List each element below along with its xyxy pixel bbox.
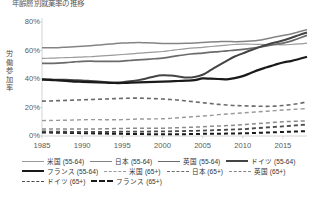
legend-item[interactable]: 米国 (65+) [104,166,160,176]
legend-swatch-icon [158,161,180,162]
legend-item[interactable]: フランス (65+) [91,176,161,186]
legend-item[interactable]: 米国 (55-64) [22,156,84,166]
legend-item[interactable]: 日本 (65+) [167,166,223,176]
chart-container: 年齢層別就業率の推移 労働参加率 80%60%40%20%0% 19851990… [0,0,313,199]
legend-label: フランス (65+) [116,176,161,186]
series-line [42,109,307,121]
legend-swatch-icon [22,161,44,162]
series-line [42,125,307,132]
legend-item[interactable]: 英国 (65+) [229,166,285,176]
legend-label: 米国 (55-64) [47,156,84,166]
legend-swatch-icon [22,181,44,182]
legend-label: ドイツ (65+) [47,176,85,186]
legend-swatch-icon [167,171,189,172]
legend-item[interactable]: フランス (55-64) [22,166,98,176]
legend-swatch-icon [91,180,113,182]
legend-swatch-icon [90,161,112,162]
legend-label: フランス (55-64) [47,166,98,176]
chart-legend: 米国 (55-64)日本 (55-64)英国 (55-64)ドイツ (55-64… [22,156,307,186]
legend-swatch-icon [104,171,126,172]
legend-swatch-icon [22,170,44,172]
series-line [42,131,307,134]
legend-label: 英国 (55-64) [183,156,220,166]
series-line [42,35,307,63]
legend-label: ドイツ (55-64) [251,156,295,166]
series-line [42,98,307,106]
legend-label: 日本 (65+) [192,166,223,176]
legend-label: 英国 (65+) [254,166,285,176]
legend-label: 日本 (55-64) [115,156,152,166]
legend-swatch-icon [229,171,251,172]
legend-item[interactable]: 英国 (55-64) [158,156,220,166]
legend-label: 米国 (65+) [129,166,160,176]
legend-swatch-icon [226,160,248,162]
legend-item[interactable]: ドイツ (65+) [22,176,85,186]
legend-item[interactable]: 日本 (55-64) [90,156,152,166]
legend-item[interactable]: ドイツ (55-64) [226,156,295,166]
